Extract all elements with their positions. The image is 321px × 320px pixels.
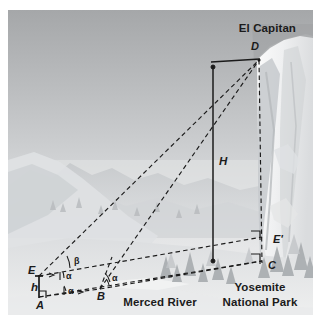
el-capitan-diagram: El Capitan Merced River Yosemite Nationa…: [8, 10, 313, 315]
label-yosemite-line2: National Park: [223, 296, 298, 308]
label-angle-alpha-e-upper: α: [66, 271, 72, 281]
scene-art: El Capitan Merced River Yosemite Nationa…: [8, 10, 313, 315]
label-el-capitan: El Capitan: [239, 22, 296, 34]
label-yosemite-line1: Yosemite: [234, 281, 285, 293]
label-merced-river: Merced River: [123, 296, 197, 308]
label-point-e-prime: E': [273, 233, 283, 245]
label-point-e: E: [28, 264, 36, 276]
label-angle-alpha-b: α: [112, 273, 118, 283]
diagram-svg: El Capitan Merced River Yosemite Nationa…: [8, 10, 313, 315]
label-point-b: B: [97, 290, 105, 302]
label-point-c: C: [268, 259, 277, 271]
dot-D: [257, 58, 260, 61]
label-angle-beta: β: [74, 256, 80, 266]
label-point-d: D: [251, 40, 259, 52]
H-bar-cap-top: [211, 65, 215, 69]
vertex-dots: [257, 58, 260, 61]
H-bar-cap-bottom: [211, 259, 215, 263]
label-point-a: A: [35, 299, 44, 311]
label-height-h: h: [31, 281, 38, 293]
label-height-H: H: [219, 155, 228, 167]
label-angle-alpha-e-lower: α: [68, 286, 74, 296]
figure-stage: El Capitan Merced River Yosemite Nationa…: [0, 0, 321, 320]
